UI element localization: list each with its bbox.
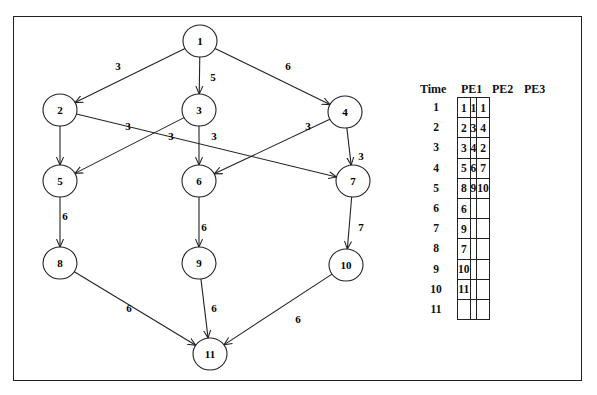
cell-pe2	[470, 219, 477, 239]
cell-pe1	[458, 299, 471, 319]
schedule-row: 8910	[458, 178, 490, 198]
schedule-row: 7	[458, 239, 490, 259]
schedule-row: 234	[458, 118, 490, 138]
task-node-3: 3	[182, 94, 216, 126]
edge-weight-label: 3	[168, 130, 174, 142]
node-label: 1	[197, 35, 203, 47]
edge-1-4	[215, 48, 330, 104]
cell-pe2: 3	[470, 118, 477, 138]
cell-pe1: 1	[458, 98, 471, 118]
edge-weight-label: 6	[62, 210, 68, 222]
cell-pe1: 10	[458, 259, 471, 279]
time-step-label: 10	[420, 279, 450, 299]
schedule-row: 10	[458, 259, 490, 279]
time-step-label: 7	[420, 218, 450, 238]
cell-pe3	[477, 239, 490, 259]
edge-weight-label: 7	[358, 221, 364, 233]
cell-pe1: 9	[458, 219, 471, 239]
time-column: 1234567891011	[420, 97, 450, 319]
node-label: 3	[196, 104, 202, 116]
time-step-label: 8	[420, 238, 450, 258]
schedule-row	[458, 299, 490, 319]
cell-pe2	[470, 239, 477, 259]
header-pe3: PE3	[524, 82, 545, 97]
edge-weight-label: 5	[210, 71, 216, 83]
edge-weight-label: 3	[211, 130, 217, 142]
node-label: 10	[341, 259, 353, 271]
cell-pe2: 6	[470, 158, 477, 178]
cell-pe1: 5	[458, 158, 471, 178]
schedule-row: 9	[458, 219, 490, 239]
time-step-label: 5	[420, 178, 450, 198]
node-label: 8	[57, 257, 63, 269]
cell-pe3	[477, 299, 490, 319]
node-label: 7	[350, 175, 356, 187]
task-node-10: 10	[329, 249, 363, 281]
task-node-4: 4	[328, 96, 362, 128]
header-pe2: PE2	[492, 82, 513, 97]
edge-weight-label: 3	[125, 120, 131, 132]
edge-weight-label: 3	[115, 60, 121, 72]
edge-8-11	[74, 272, 195, 346]
time-step-label: 11	[420, 299, 450, 319]
edge-weight-label: 6	[295, 313, 301, 325]
cell-pe3	[477, 259, 490, 279]
task-node-2: 2	[43, 94, 77, 126]
cell-pe1: 3	[458, 138, 471, 158]
schedule-row: 567	[458, 158, 490, 178]
header-pe1: PE1	[461, 82, 482, 97]
edge-weight-label: 3	[305, 120, 311, 132]
cell-pe1: 8	[458, 178, 471, 198]
schedule-row: 6	[458, 198, 490, 218]
time-step-label: 3	[420, 137, 450, 157]
cell-pe2	[470, 198, 477, 218]
schedule-row: 11	[458, 279, 490, 299]
edge-weight-label: 6	[285, 60, 291, 72]
edge-7-10	[347, 197, 351, 249]
cell-pe3	[477, 219, 490, 239]
task-graph: 35633333667666 1234567891011	[0, 0, 597, 395]
cell-pe2: 9	[470, 178, 477, 198]
node-label: 5	[57, 175, 63, 187]
edge-10-11	[224, 274, 332, 345]
node-label: 4	[342, 106, 348, 118]
cell-pe1: 11	[458, 279, 471, 299]
time-step-label: 6	[420, 198, 450, 218]
cell-pe2	[470, 259, 477, 279]
task-node-8: 8	[43, 247, 77, 279]
cell-pe3	[477, 198, 490, 218]
edge-4-7	[347, 128, 351, 165]
schedule-grid: 11123434256789106971011	[457, 97, 490, 320]
header-time: Time	[420, 82, 446, 97]
task-node-9: 9	[182, 247, 216, 279]
task-node-1: 1	[183, 25, 217, 57]
edge-weight-label: 6	[126, 302, 132, 314]
cell-pe2	[470, 299, 477, 319]
schedule-row: 342	[458, 138, 490, 158]
cell-pe3: 7	[477, 158, 490, 178]
task-node-5: 5	[43, 165, 77, 197]
edge-9-11	[201, 279, 208, 338]
edge-weight-label: 6	[211, 302, 217, 314]
cell-pe3: 4	[477, 118, 490, 138]
cell-pe3: 10	[477, 178, 490, 198]
edge-weight-label: 6	[201, 221, 207, 233]
cell-pe1: 2	[458, 118, 471, 138]
node-label: 9	[196, 257, 202, 269]
time-step-label: 9	[420, 259, 450, 279]
time-step-label: 4	[420, 158, 450, 178]
time-step-label: 2	[420, 117, 450, 137]
edge-1-3	[199, 57, 200, 94]
cell-pe3	[477, 279, 490, 299]
node-label: 2	[57, 104, 63, 116]
cell-pe1: 6	[458, 198, 471, 218]
cell-pe3: 2	[477, 138, 490, 158]
cell-pe2	[470, 279, 477, 299]
cell-pe1: 7	[458, 239, 471, 259]
cell-pe2: 1	[470, 98, 477, 118]
edge-4-6	[214, 119, 330, 174]
task-node-6: 6	[182, 165, 216, 197]
cell-pe2: 4	[470, 138, 477, 158]
task-node-7: 7	[336, 165, 370, 197]
time-step-label: 1	[420, 97, 450, 117]
